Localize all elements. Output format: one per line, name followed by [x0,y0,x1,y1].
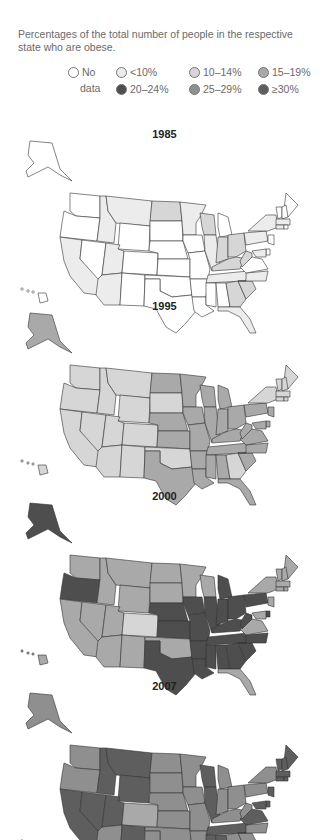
legend-item: <10% [116,66,157,78]
legend-swatch [189,84,200,95]
state-nm [120,445,145,478]
state-ma [276,581,290,587]
state-wi [200,213,216,235]
state-wy [118,395,150,423]
state-pa [244,593,268,607]
state-ri [284,397,288,401]
state-ks [157,621,190,639]
state-mi [218,765,232,789]
state-ar [190,279,208,297]
legend-label: 20–24% [130,83,169,95]
state-co [122,803,158,827]
state-wy [118,585,150,613]
state-de [266,421,270,427]
state-wa [70,193,100,218]
state-ia [183,787,205,805]
state-nj [268,407,274,417]
legend-swatch [116,84,127,95]
state-ak [26,503,72,543]
state-ms [206,645,216,669]
state-oh [228,405,246,429]
legend-label: 15–19% [272,66,311,78]
hawaii-island-icon [21,460,23,462]
state-mi [218,575,232,599]
state-oh [228,785,246,809]
hawaii-island-icon [32,653,34,655]
state-ny [248,577,278,593]
state-co [122,423,158,447]
state-nm [120,825,145,840]
state-hi [38,465,48,475]
legend-label: 10–14% [203,66,242,78]
legend-swatch [258,67,269,78]
legend-label: 25–29% [203,83,242,95]
state-wa [70,745,100,770]
state-ak [26,141,72,181]
legend-swatch [258,84,269,95]
state-ny [248,387,278,403]
legend: No data <10% 20–24% 10–14% 25–29% 15–19%… [68,66,328,100]
hawaii-island-icon [32,291,34,293]
state-in [216,237,228,263]
state-nj [268,597,274,607]
state-oh [228,233,246,257]
state-ms [206,835,216,840]
legend-item: 25–29% [189,83,242,95]
legend-item: 15–19% [258,66,311,78]
legend-label: No [82,66,95,78]
hawaii-island-icon [32,463,34,465]
state-md [252,249,266,257]
state-wa [70,365,100,390]
state-ri [284,587,288,591]
legend-swatch [116,67,127,78]
state-pa [244,231,268,245]
state-ct [276,777,284,781]
state-ma [276,391,290,397]
hawaii-island-icon [21,650,23,652]
state-vt [276,759,282,771]
state-nj [268,787,274,797]
state-wi [200,385,216,407]
state-wy [118,775,150,803]
state-sd [150,773,183,793]
us-choropleth-map [0,498,329,698]
state-nj [268,235,274,245]
state-md [252,611,266,619]
legend-swatch-nodata [68,67,79,78]
state-ct [276,397,284,401]
us-choropleth-map [0,688,329,840]
state-ia [183,597,205,615]
hawaii-island-icon [27,462,29,464]
state-ak [26,313,72,353]
state-nd [150,373,182,393]
legend-swatch [189,67,200,78]
state-ks [157,811,190,829]
state-ct [276,587,284,591]
state-mi [218,385,232,409]
state-az [96,445,122,477]
state-ks [157,431,190,449]
state-mi [218,213,232,237]
state-wi [200,765,216,787]
state-sd [150,221,183,241]
state-sd [150,393,183,413]
state-sd [150,583,183,603]
state-ny [248,215,278,231]
state-ia [183,407,205,425]
state-ar [190,451,208,469]
state-ms [206,455,216,479]
state-vt [276,569,282,581]
state-vt [276,379,282,391]
state-md [252,801,266,809]
hawaii-island-icon [27,290,29,292]
state-oh [228,595,246,619]
state-nm [120,635,145,668]
state-ma [276,771,290,777]
state-ak [26,693,72,733]
legend-label: data [80,82,100,94]
state-nd [150,563,182,583]
legend-item: 20–24% [116,83,169,95]
state-ri [284,225,288,229]
map-caption: Percentages of the total number of peopl… [18,28,318,54]
state-ks [157,259,190,277]
